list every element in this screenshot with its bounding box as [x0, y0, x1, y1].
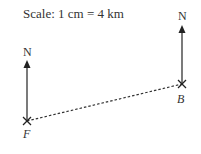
point-b-label: B — [177, 92, 184, 107]
f-north-arrowhead-icon — [24, 60, 31, 68]
f-to-b-dashed-line — [27, 84, 182, 121]
f-north-label: N — [23, 45, 32, 60]
b-north-label: N — [178, 9, 187, 24]
b-north-arrowhead-icon — [179, 25, 186, 33]
point-f-label: F — [23, 127, 30, 142]
